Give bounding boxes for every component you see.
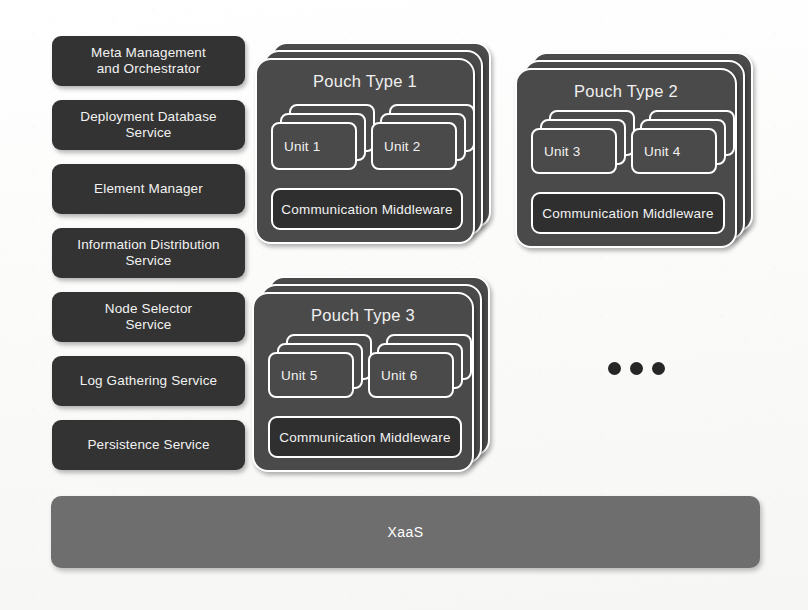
- unit-label: Unit 2: [384, 139, 420, 154]
- more-pouches-ellipsis: [608, 362, 665, 375]
- unit-label: Unit 1: [284, 139, 320, 154]
- middleware-label: Communication Middleware: [542, 206, 713, 221]
- service-box-node-selector-service[interactable]: Node Selector Service: [52, 292, 245, 342]
- service-label: Information Distribution Service: [77, 237, 219, 269]
- ellipsis-dot: [608, 362, 621, 375]
- unit-stack-unit-3[interactable]: Unit 3: [531, 128, 623, 186]
- pouch-card-pouch-type-1[interactable]: Pouch Type 1 Unit 1 Unit 2 Communication…: [255, 58, 475, 244]
- unit-label: Unit 6: [381, 368, 417, 383]
- pouch-group-pouch-type-3[interactable]: Pouch Type 3 Unit 5 Unit 6 Communication…: [252, 292, 487, 482]
- unit-label: Unit 5: [281, 368, 317, 383]
- unit-card-unit-1[interactable]: Unit 1: [271, 122, 357, 170]
- unit-card-unit-2[interactable]: Unit 2: [371, 122, 457, 170]
- service-box-element-manager[interactable]: Element Manager: [52, 164, 245, 214]
- unit-stack-unit-6[interactable]: Unit 6: [368, 352, 460, 410]
- middleware-bar-pouch-type-3[interactable]: Communication Middleware: [268, 416, 462, 458]
- xaas-label: XaaS: [388, 524, 424, 540]
- pouch-group-pouch-type-2[interactable]: Pouch Type 2 Unit 3 Unit 4 Communication…: [515, 68, 750, 264]
- service-label: Element Manager: [94, 181, 203, 197]
- pouch-title: Pouch Type 3: [254, 306, 472, 325]
- service-box-log-gathering-service[interactable]: Log Gathering Service: [52, 356, 245, 406]
- pouch-card-pouch-type-3[interactable]: Pouch Type 3 Unit 5 Unit 6 Communication…: [252, 292, 474, 472]
- service-label: Node Selector Service: [105, 301, 193, 333]
- pouch-title: Pouch Type 1: [257, 72, 473, 91]
- unit-stack-unit-1[interactable]: Unit 1: [271, 122, 363, 180]
- middleware-label: Communication Middleware: [279, 430, 450, 445]
- service-box-persistence-service[interactable]: Persistence Service: [52, 420, 245, 470]
- unit-label: Unit 3: [544, 144, 580, 159]
- unit-card-unit-4[interactable]: Unit 4: [631, 128, 717, 174]
- service-label: Persistence Service: [87, 437, 209, 453]
- xaas-base-layer[interactable]: XaaS: [51, 496, 760, 568]
- middleware-label: Communication Middleware: [281, 202, 452, 217]
- unit-card-unit-5[interactable]: Unit 5: [268, 352, 354, 398]
- service-box-information-distribution-service[interactable]: Information Distribution Service: [52, 228, 245, 278]
- ellipsis-dot: [630, 362, 643, 375]
- service-label: Deployment Database Service: [80, 109, 216, 141]
- unit-card-unit-6[interactable]: Unit 6: [368, 352, 454, 398]
- unit-stack-unit-2[interactable]: Unit 2: [371, 122, 463, 180]
- pouch-title: Pouch Type 2: [517, 82, 735, 101]
- service-label: Meta Management and Orchestrator: [91, 45, 206, 77]
- service-box-deployment-database-service[interactable]: Deployment Database Service: [52, 100, 245, 150]
- unit-stack-unit-5[interactable]: Unit 5: [268, 352, 360, 410]
- pouch-group-pouch-type-1[interactable]: Pouch Type 1 Unit 1 Unit 2 Communication…: [255, 58, 485, 254]
- middleware-bar-pouch-type-2[interactable]: Communication Middleware: [531, 192, 725, 234]
- architecture-diagram: Meta Management and Orchestrator Deploym…: [0, 0, 808, 610]
- service-label: Log Gathering Service: [80, 373, 217, 389]
- pouch-card-pouch-type-2[interactable]: Pouch Type 2 Unit 3 Unit 4 Communication…: [515, 68, 737, 248]
- unit-stack-unit-4[interactable]: Unit 4: [631, 128, 723, 186]
- middleware-bar-pouch-type-1[interactable]: Communication Middleware: [271, 188, 463, 230]
- unit-card-unit-3[interactable]: Unit 3: [531, 128, 617, 174]
- ellipsis-dot: [652, 362, 665, 375]
- service-box-meta-management-and-orchestrator[interactable]: Meta Management and Orchestrator: [52, 36, 245, 86]
- unit-label: Unit 4: [644, 144, 680, 159]
